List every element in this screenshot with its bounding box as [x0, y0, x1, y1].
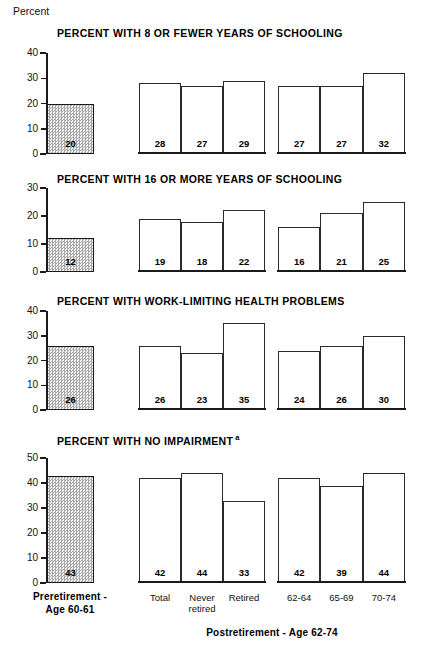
y-tick [40, 153, 46, 155]
category-label-never-retired: Neverretired [181, 592, 223, 614]
y-tick [41, 335, 46, 337]
y-tick [41, 532, 46, 534]
group-baseline [138, 270, 266, 272]
y-tick-label: 10 [27, 124, 38, 134]
bar-value-label: 20 [48, 139, 93, 149]
y-tick-label: 0 [32, 267, 38, 277]
category-label-62-64: 62-64 [278, 592, 320, 603]
bar-value-label: 12 [48, 257, 93, 267]
bar-value-label: 35 [224, 395, 264, 405]
bar: 42 [278, 478, 320, 583]
bar-group-preretirement: 26 [47, 311, 94, 410]
bar-value-label: 26 [321, 395, 361, 405]
bar-value-label: 27 [182, 139, 222, 149]
panel-title: PERCENT WITH NO IMPAIRMENTa [57, 433, 240, 447]
y-tick [40, 52, 46, 54]
y-tick-label: 30 [27, 183, 38, 193]
bar-group-postretirement_age: 242630 [278, 311, 405, 410]
y-tick [41, 78, 46, 80]
bar: 44 [181, 473, 223, 583]
bar: 42 [139, 478, 181, 583]
label-line-2: retired [181, 603, 223, 614]
bar-value-label: 25 [364, 257, 404, 267]
bar: 24 [278, 351, 320, 410]
bar-value-label: 42 [140, 568, 180, 578]
bar-value-label: 33 [224, 568, 264, 578]
bar: 27 [181, 86, 223, 154]
y-tick-label: 40 [27, 478, 38, 488]
group-baseline [138, 152, 266, 154]
y-tick-label: 10 [27, 239, 38, 249]
y-tick [41, 360, 46, 362]
y-tick-label: 40 [27, 48, 38, 58]
bar-group-postretirement_status: 191822 [139, 188, 265, 272]
y-tick-label: 40 [27, 306, 38, 316]
bar-value-label: 27 [321, 139, 361, 149]
category-label-total: Total [139, 592, 181, 603]
bar-value-label: 43 [48, 568, 93, 578]
bar-value-label: 16 [279, 257, 319, 267]
bar: 21 [320, 213, 362, 272]
bar: 26 [320, 346, 362, 410]
footnote-marker: a [235, 433, 239, 442]
y-tick-label: 10 [27, 380, 38, 390]
y-tick [40, 310, 46, 312]
y-tick-label: 50 [27, 453, 38, 463]
y-tick-label: 20 [27, 356, 38, 366]
bar: 12 [47, 238, 94, 272]
bar-value-label: 44 [364, 568, 404, 578]
y-tick-label: 10 [27, 553, 38, 563]
bar: 27 [320, 86, 362, 154]
postretirement-group-caption: Postretirement - Age 62-74 [139, 627, 405, 640]
y-tick-label: 30 [27, 73, 38, 83]
bar-value-label: 18 [182, 257, 222, 267]
y-axis-caption: Percent [13, 6, 49, 17]
bar: 18 [181, 222, 223, 272]
bar-value-label: 32 [364, 139, 404, 149]
group-baseline [277, 152, 406, 154]
bar: 29 [223, 81, 265, 154]
bar: 30 [363, 336, 405, 410]
y-tick [40, 457, 46, 459]
y-tick [40, 187, 46, 189]
caption-line-2: Age 60-61 [10, 604, 130, 617]
bar-group-postretirement_status: 262335 [139, 311, 265, 410]
bar-value-label: 23 [182, 395, 222, 405]
bar-value-label: 24 [279, 395, 319, 405]
bar-value-label: 26 [48, 395, 93, 405]
bar-value-label: 26 [140, 395, 180, 405]
caption-line-1: Preretirement - [10, 591, 130, 604]
y-tick-label: 0 [32, 149, 38, 159]
bar-value-label: 21 [321, 257, 361, 267]
bar: 19 [139, 219, 181, 272]
y-tick [41, 243, 46, 245]
bar-value-label: 22 [224, 257, 264, 267]
y-tick [41, 128, 46, 130]
bar-value-label: 44 [182, 568, 222, 578]
y-tick-label: 20 [27, 211, 38, 221]
bar-group-postretirement_age: 162125 [278, 188, 405, 272]
bar: 35 [223, 323, 265, 410]
y-tick-label: 30 [27, 331, 38, 341]
group-baseline [138, 408, 266, 410]
panel-title: PERCENT WITH 8 OR FEWER YEARS OF SCHOOLI… [57, 27, 343, 39]
y-tick-label: 20 [27, 99, 38, 109]
bar-value-label: 27 [279, 139, 319, 149]
group-baseline [277, 270, 406, 272]
y-tick [41, 385, 46, 387]
y-tick-label: 20 [27, 528, 38, 538]
group-baseline [277, 408, 406, 410]
panel-title: PERCENT WITH WORK-LIMITING HEALTH PROBLE… [57, 295, 344, 307]
bar-value-label: 29 [224, 139, 264, 149]
category-label-retired: Retired [223, 592, 265, 603]
group-baseline [277, 581, 406, 583]
bar-group-preretirement: 20 [47, 53, 94, 154]
preretirement-group-caption: Preretirement -Age 60-61 [10, 591, 130, 616]
panel-title: PERCENT WITH 16 OR MORE YEARS OF SCHOOLI… [57, 173, 342, 185]
bar-value-label: 42 [279, 568, 319, 578]
bar-value-label: 39 [321, 568, 361, 578]
bar: 25 [363, 202, 405, 272]
bar: 33 [223, 501, 265, 584]
bar: 16 [278, 227, 320, 272]
y-tick-label: 30 [27, 503, 38, 513]
